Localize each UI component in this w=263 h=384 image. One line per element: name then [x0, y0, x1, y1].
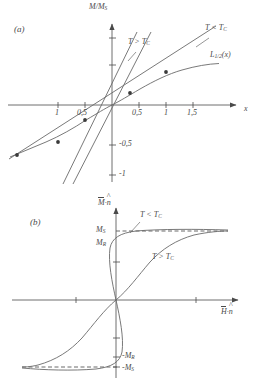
- panel-a-label-t-gt-tc: T > TC: [128, 37, 150, 46]
- panel-a-intersection-dots: [15, 70, 168, 157]
- leader-t-lt-tc-a: [196, 38, 209, 47]
- panel-a-x-axis-label: x: [244, 104, 248, 113]
- panel-a-label-t-lt-tc-text: T < T: [205, 23, 223, 32]
- panel-b-label-ms-positive: MS: [96, 225, 105, 234]
- panel-a-xtick-pos-1: 1: [164, 108, 168, 117]
- panel-b-label-ms-negative-sub: S: [131, 366, 134, 372]
- panel-a-tag: (a): [14, 24, 25, 34]
- panel-a-y-axis-label-text: M/M: [89, 2, 105, 11]
- overbar-m: [98, 197, 104, 198]
- panel-a-xtick-pos-15: 1,5: [187, 108, 197, 117]
- panel-b-y-axis-label-main: M: [98, 198, 105, 207]
- panel-b-label-mr-negative-sub: R: [131, 354, 134, 360]
- panel-b-label-t-lt-tc-sub: C: [158, 213, 162, 219]
- panel-a-plot: [8, 24, 236, 184]
- panel-b-x-axis-label-h: H: [221, 307, 227, 316]
- curve-t-gt-tc-lower: [22, 300, 116, 367]
- panel-b-label-ms-negative: -MS: [122, 363, 134, 372]
- panel-b-label-mr-positive-text: M: [96, 238, 103, 247]
- panel-b-label-t-lt-tc-text: T < T: [140, 210, 158, 219]
- panel-a-label-brillouin-sub: 1/2: [214, 53, 221, 59]
- panel-b-label-t-gt-tc-sub: C: [170, 255, 174, 261]
- panel-a-label-t-lt-tc-sub: C: [223, 26, 227, 32]
- panel-a-label-t-gt-tc-sub: C: [146, 40, 150, 46]
- panel-a-xtick-neg-05: 0,5: [77, 108, 87, 117]
- panel-a-label-t-gt-tc-text: T > T: [128, 37, 146, 46]
- panel-a-label-brillouin: L1/2(x): [210, 50, 231, 59]
- panel-b-tag: (b): [30, 217, 41, 227]
- panel-b-label-mr-negative: -MR: [122, 351, 135, 360]
- curve-line-t-lt-tc: [9, 26, 216, 159]
- panel-a-label-brillouin-tail: (x): [222, 50, 231, 59]
- curve-t-gt-tc-upper: [116, 231, 228, 300]
- panel-a-xtick-pos-05: 0,5: [132, 108, 142, 117]
- overbar-h: [221, 306, 226, 307]
- panel-b-label-t-lt-tc: T < TC: [140, 210, 162, 219]
- hat-n: ^: [107, 195, 111, 198]
- panel-a-y-axis-label-sub: S: [105, 5, 108, 11]
- leader-t-gt-tc-a: [128, 52, 136, 61]
- curve-line-t-gt-tc-1: [63, 32, 137, 184]
- panel-b-label-mr-positive-sub: R: [103, 241, 106, 247]
- panel-b-label-t-gt-tc-text: T > T: [152, 252, 170, 261]
- panel-b-label-ms-negative-text: -M: [122, 363, 131, 372]
- figure-container: (a) M/MS x 1 0,5 0,5 1 1,5 -0,5 -1 T < T…: [0, 0, 263, 384]
- panel-b-y-axis-label-m: M: [98, 198, 105, 207]
- panel-b-x-axis-label-main: H: [221, 307, 227, 316]
- panel-b-label-t-gt-tc: T > TC: [152, 252, 174, 261]
- panel-a-ytick-neg-05: -0,5: [119, 139, 132, 148]
- panel-b-x-axis-label-n: ^n: [229, 307, 233, 316]
- panel-a-ytick-neg-1: -1: [119, 169, 126, 178]
- panel-b-label-ms-positive-sub: S: [103, 228, 106, 234]
- panel-b-x-axis-label: H·^n: [221, 307, 233, 316]
- panel-b-y-axis-label: M·^n: [98, 198, 111, 207]
- curve-t-lt-tc-lower: [22, 300, 123, 370]
- panel-b-label-mr-positive: MR: [96, 238, 106, 247]
- panel-a-label-t-lt-tc: T < TC: [205, 23, 227, 32]
- panel-b-y-axis-label-n: ^n: [107, 198, 111, 207]
- panel-b-ticks: [76, 262, 196, 367]
- panel-a-xtick-neg-1: 1: [55, 108, 59, 117]
- panel-b-label-mr-negative-text: -M: [122, 351, 131, 360]
- hat-n-2: ^: [229, 304, 233, 307]
- panel-b-label-ms-positive-text: M: [96, 225, 103, 234]
- panel-a-y-axis-label: M/MS: [89, 2, 107, 11]
